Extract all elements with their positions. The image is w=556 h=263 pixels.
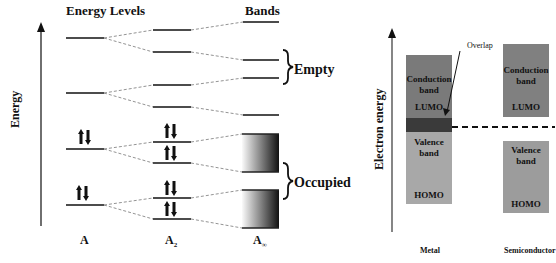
energy-axis-label: Energy	[8, 91, 23, 128]
occupied-label: Occupied	[294, 175, 351, 191]
metal-lumo-label: LUMO	[406, 102, 452, 113]
empty-label: Empty	[294, 62, 334, 78]
column-label-a2: A2	[165, 233, 177, 249]
semiconductor-label: Semiconductor	[504, 246, 556, 255]
semi-homo-label: HOMO	[503, 199, 549, 210]
semi-valence-label: Valence band	[503, 145, 549, 167]
semi-lumo-label: LUMO	[503, 102, 549, 113]
metal-conduction-label: Conduction band	[406, 74, 452, 96]
overlap-label: Overlap	[467, 41, 493, 50]
column-label-a: A	[80, 233, 89, 248]
bands-title: Bands	[245, 3, 280, 19]
metal-label: Metal	[420, 246, 440, 255]
energy-levels-title: Energy Levels	[66, 3, 145, 19]
electron-energy-axis-label: Electron energy	[372, 89, 387, 170]
metal-valence-label: Valence band	[406, 137, 452, 159]
semi-conduction-label: Conduction band	[503, 65, 549, 87]
column-label-ainf: A∞	[253, 233, 267, 249]
metal-homo-label: HOMO	[406, 190, 452, 201]
